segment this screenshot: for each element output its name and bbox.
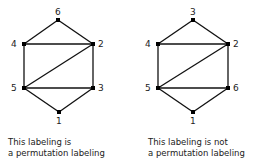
graph-node <box>156 42 160 46</box>
right-graph: 342561 <box>145 7 239 126</box>
node-label: 2 <box>98 39 104 49</box>
graph-node <box>226 86 230 90</box>
node-label: 6 <box>233 83 239 93</box>
graph-node <box>22 86 26 90</box>
graph-edge <box>158 20 193 44</box>
graph-edge <box>193 20 228 44</box>
graph-node <box>22 42 26 46</box>
graph-node <box>191 110 195 114</box>
graph-edge <box>24 88 59 112</box>
graph-node <box>57 110 61 114</box>
graph-node <box>56 18 60 22</box>
graph-node <box>191 18 195 22</box>
graph-edge <box>24 20 58 44</box>
graph-edge <box>193 88 228 112</box>
left-graph: 642531 <box>11 7 104 126</box>
node-label: 1 <box>190 116 196 126</box>
graph-edge <box>24 44 93 88</box>
graph-node <box>156 86 160 90</box>
graph-edge <box>158 88 193 112</box>
node-label: 5 <box>11 83 17 93</box>
left-caption-line1: This labeling is <box>8 137 105 148</box>
graph-edge <box>59 88 93 112</box>
node-label: 4 <box>145 39 151 49</box>
right-caption: This labeling is not a permutation label… <box>148 137 245 159</box>
right-caption-line1: This labeling is not <box>148 137 245 148</box>
node-label: 3 <box>190 7 196 17</box>
graph-node <box>226 42 230 46</box>
node-label: 1 <box>56 116 62 126</box>
graph-edge <box>58 20 93 44</box>
node-label: 6 <box>55 7 61 17</box>
graph-node <box>91 86 95 90</box>
node-label: 3 <box>98 83 104 93</box>
graph-node <box>91 42 95 46</box>
right-caption-line2: a permutation labeling <box>148 148 245 159</box>
node-label: 2 <box>233 39 239 49</box>
left-caption-line2: a permutation labeling <box>8 148 105 159</box>
left-caption: This labeling is a permutation labeling <box>8 137 105 159</box>
graph-edge <box>158 44 228 88</box>
node-label: 5 <box>145 83 151 93</box>
node-label: 4 <box>11 39 17 49</box>
